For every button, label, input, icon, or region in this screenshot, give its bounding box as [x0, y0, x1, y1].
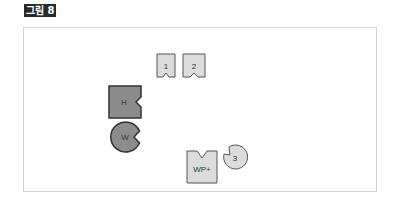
diagram-canvas: 1 2 H W WP+ 3 — [0, 0, 399, 207]
piece-h-text: H — [121, 98, 127, 107]
piece-2: 2 — [183, 54, 205, 77]
piece-1-text: 1 — [164, 62, 169, 71]
piece-h: H — [109, 86, 141, 118]
piece-wp: WP+ — [187, 151, 217, 183]
piece-w-text: W — [121, 133, 129, 142]
piece-3-text: 3 — [233, 154, 238, 163]
piece-2-text: 2 — [192, 62, 197, 71]
piece-3: 3 — [224, 145, 248, 169]
piece-wp-text: WP+ — [193, 165, 211, 174]
piece-w: W — [111, 122, 140, 152]
piece-1: 1 — [157, 54, 175, 77]
